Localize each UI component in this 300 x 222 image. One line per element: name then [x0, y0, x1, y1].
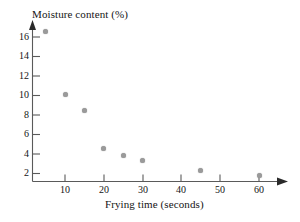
x-tick-label: 10 — [55, 184, 75, 195]
data-point — [82, 108, 87, 113]
y-tick-label: 6 — [13, 128, 29, 139]
y-tick-marks — [33, 37, 41, 174]
y-tick-label: 14 — [13, 50, 29, 61]
data-point — [63, 92, 68, 97]
x-axis-arrow-icon — [277, 178, 288, 186]
x-tick-label: 50 — [210, 184, 230, 195]
x-tick-label: 20 — [94, 184, 114, 195]
y-tick-label: 2 — [13, 167, 29, 178]
y-tick-label: 4 — [13, 148, 29, 159]
y-tick-label: 10 — [13, 89, 29, 100]
x-tick-label: 40 — [171, 184, 191, 195]
data-point — [257, 173, 262, 178]
x-tick-label: 60 — [249, 184, 269, 195]
y-axis-arrow-icon — [29, 20, 36, 30]
data-point — [101, 146, 106, 151]
scatter-chart: Moisture content (%) Frying time (second… — [0, 0, 300, 222]
data-point — [43, 29, 48, 34]
y-tick-label: 12 — [13, 70, 29, 81]
x-tick-label: 30 — [133, 184, 153, 195]
x-tick-marks — [65, 175, 259, 182]
y-tick-label: 8 — [13, 109, 29, 120]
y-tick-label: 16 — [13, 31, 29, 42]
